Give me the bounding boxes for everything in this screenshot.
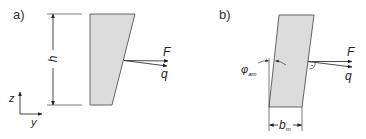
load-q-label: q: [161, 67, 168, 81]
force-F-label: F: [163, 45, 171, 59]
force-arrows-b: F q: [308, 45, 355, 83]
force-arrows-a: F q: [124, 45, 171, 81]
panel-b-label: b): [219, 7, 231, 22]
y-axis-label: y: [30, 116, 38, 128]
panel-b: b) φam F q bm: [219, 7, 355, 132]
height-dimension: h: [46, 14, 82, 105]
tapered-cross-section: [90, 14, 135, 105]
z-axis-label: z: [8, 92, 15, 104]
angle-phi-label: φam: [241, 63, 257, 77]
load-q-label-b: q: [345, 69, 352, 83]
force-F-label-b: F: [347, 45, 355, 59]
structural-diagram: a) h F q z y b): [0, 0, 366, 139]
panel-a-label: a): [13, 7, 25, 22]
angle-arc-left: [258, 61, 269, 63]
width-bm-label: bm: [279, 118, 291, 132]
width-dimension: bm: [269, 107, 302, 132]
height-label: h: [46, 55, 60, 62]
panel-a: a) h F q z y: [8, 7, 171, 128]
right-angle-dot: [311, 65, 312, 66]
coordinate-axes: z y: [8, 92, 42, 128]
